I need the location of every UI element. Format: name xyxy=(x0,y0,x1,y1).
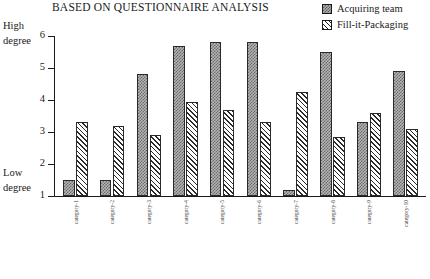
category-label: category-5 xyxy=(220,200,225,224)
y-axis-line xyxy=(54,36,55,197)
y-tick-mark xyxy=(48,132,54,133)
category-label: category-1 xyxy=(74,200,79,224)
bar-fill-it-packaging xyxy=(296,92,308,196)
category-label: category-3 xyxy=(147,200,152,224)
bar-acquiring-team xyxy=(210,42,222,196)
bar-acquiring-team xyxy=(320,52,332,196)
category-label: category-9 xyxy=(367,200,372,224)
bar-acquiring-team xyxy=(173,46,185,196)
category-label: category-2 xyxy=(110,200,115,224)
y-tick-label: 4 xyxy=(31,93,45,104)
category-label: category-7 xyxy=(294,200,299,224)
bar-fill-it-packaging xyxy=(186,102,198,196)
category-label: category-8 xyxy=(331,200,336,224)
y-tick-mark xyxy=(48,36,54,37)
category-label: category-4 xyxy=(184,200,189,224)
x-axis-line xyxy=(54,196,426,197)
bar-acquiring-team xyxy=(393,71,405,196)
y-tick-mark xyxy=(48,164,54,165)
y-tick-mark xyxy=(48,196,54,197)
category-label: category-6 xyxy=(257,200,262,224)
bar-fill-it-packaging xyxy=(223,110,235,196)
questionnaire-bar-chart: BASED ON QUESTIONNAIRE ANALYSIS Acquirin… xyxy=(0,0,430,279)
plot-area: 123456 category-1category-2category-3cat… xyxy=(0,0,430,279)
category-label: category-10 xyxy=(404,200,409,227)
y-tick-label: 6 xyxy=(31,29,45,40)
bar-acquiring-team xyxy=(357,122,369,196)
y-tick-mark xyxy=(48,100,54,101)
bar-acquiring-team xyxy=(283,190,295,196)
bar-acquiring-team xyxy=(100,180,112,196)
bar-fill-it-packaging xyxy=(76,122,88,196)
bar-fill-it-packaging xyxy=(370,113,382,196)
bar-acquiring-team xyxy=(63,180,75,196)
bar-fill-it-packaging xyxy=(333,137,345,196)
bar-acquiring-team xyxy=(137,74,149,196)
y-tick-label: 2 xyxy=(31,157,45,168)
bar-fill-it-packaging xyxy=(150,135,162,196)
bar-acquiring-team xyxy=(247,42,259,196)
y-tick-mark xyxy=(48,68,54,69)
y-tick-label: 5 xyxy=(31,61,45,72)
bar-fill-it-packaging xyxy=(113,126,125,196)
bar-fill-it-packaging xyxy=(406,129,418,196)
bar-fill-it-packaging xyxy=(260,122,272,196)
y-tick-label: 3 xyxy=(31,125,45,136)
y-tick-label: 1 xyxy=(31,189,45,200)
